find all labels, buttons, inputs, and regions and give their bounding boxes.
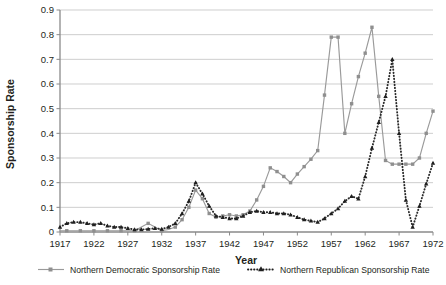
data-point <box>289 181 292 184</box>
data-point <box>391 162 394 165</box>
y-tick-label: 0.6 <box>41 78 54 89</box>
x-tick-label: 1962 <box>355 238 376 249</box>
data-point <box>58 225 62 229</box>
data-point <box>350 102 353 105</box>
data-point <box>411 162 414 165</box>
data-point <box>370 26 373 29</box>
data-point <box>404 162 407 165</box>
x-axis-title: Year <box>235 254 257 266</box>
data-point <box>255 198 258 201</box>
data-point <box>323 93 326 96</box>
line-chart: 00.10.20.30.40.50.60.70.80.9 19171922192… <box>0 0 446 285</box>
legend-item-democratic: Northern Democratic Sponsorship Rate <box>38 265 220 275</box>
legend-item-republican: Northern Republican Sponsorship Rate <box>248 265 430 275</box>
data-point <box>269 166 272 169</box>
series-democratic <box>60 26 435 233</box>
x-tick-label: 1932 <box>151 238 172 249</box>
x-tick-label: 1957 <box>321 238 342 249</box>
grid-lines <box>60 10 433 207</box>
series-republican <box>58 57 435 231</box>
x-tick-label: 1947 <box>253 238 274 249</box>
data-point <box>79 229 82 232</box>
data-point <box>78 220 82 224</box>
data-point <box>180 218 183 221</box>
data-point <box>336 35 339 38</box>
y-tick-label: 0.2 <box>41 177 54 188</box>
x-tick-label: 1972 <box>422 238 443 249</box>
data-point <box>410 225 414 229</box>
data-point <box>180 211 184 215</box>
y-tick-label: 0.8 <box>41 29 54 40</box>
x-tick-label: 1922 <box>83 238 104 249</box>
x-tick-label: 1967 <box>389 238 410 249</box>
x-tick-labels: 1917192219271932193719421947195219571962… <box>49 232 443 249</box>
x-tick-label: 1942 <box>219 238 240 249</box>
data-point <box>296 172 299 175</box>
y-tick-label: 0.9 <box>41 4 54 15</box>
data-point <box>330 35 333 38</box>
data-point <box>309 158 312 161</box>
data-point <box>431 161 435 165</box>
chart-figure: 00.10.20.30.40.50.60.70.80.9 19171922192… <box>0 0 446 285</box>
data-point <box>174 225 177 228</box>
data-point <box>228 213 231 216</box>
data-point <box>201 197 204 200</box>
data-point <box>417 204 421 208</box>
data-point <box>404 198 408 202</box>
x-tick-label: 1952 <box>287 238 308 249</box>
data-point <box>282 175 285 178</box>
x-tick-label: 1937 <box>185 238 206 249</box>
data-point <box>383 94 387 98</box>
y-tick-label: 0.1 <box>41 202 54 213</box>
data-point <box>418 156 421 159</box>
data-point <box>425 132 428 135</box>
data-point <box>316 149 319 152</box>
data-point <box>357 75 360 78</box>
data-point <box>194 188 197 191</box>
data-point <box>200 191 204 195</box>
y-tick-label: 0.4 <box>41 128 54 139</box>
data-point <box>302 165 305 168</box>
data-point <box>349 194 353 198</box>
data-point <box>160 227 164 231</box>
data-point <box>208 212 211 215</box>
data-point <box>377 95 380 98</box>
data-point <box>363 51 366 54</box>
y-tick-label: 0.5 <box>41 103 54 114</box>
data-point <box>275 170 278 173</box>
y-tick-label: 0 <box>49 226 54 237</box>
data-point <box>343 132 346 135</box>
legend: Northern Democratic Sponsorship Rate Nor… <box>38 265 430 275</box>
data-point <box>431 109 434 112</box>
y-tick-labels: 00.10.20.30.40.50.60.70.80.9 <box>41 4 60 237</box>
data-point <box>173 221 177 225</box>
y-tick-label: 0.7 <box>41 54 54 65</box>
data-point <box>65 229 68 232</box>
data-point <box>363 174 367 178</box>
data-point <box>262 185 265 188</box>
legend-label-democratic: Northern Democratic Sponsorship Rate <box>70 265 220 275</box>
data-point <box>268 210 272 214</box>
y-tick-label: 0.3 <box>41 152 54 163</box>
data-point <box>384 159 387 162</box>
data-point <box>370 146 374 150</box>
data-point <box>187 206 190 209</box>
data-point <box>146 222 149 225</box>
data-point <box>119 229 122 232</box>
data-point <box>105 224 109 228</box>
x-tick-label: 1927 <box>117 238 138 249</box>
data-point <box>106 229 109 232</box>
x-tick-label: 1917 <box>49 238 70 249</box>
y-axis-title: Sponsorship Rate <box>4 79 16 169</box>
legend-label-republican: Northern Republican Sponsorship Rate <box>280 265 430 275</box>
data-point <box>424 182 428 186</box>
data-point <box>397 162 400 165</box>
data-point <box>92 229 95 232</box>
legend-marker-democratic <box>49 268 53 272</box>
data-point <box>377 120 381 124</box>
